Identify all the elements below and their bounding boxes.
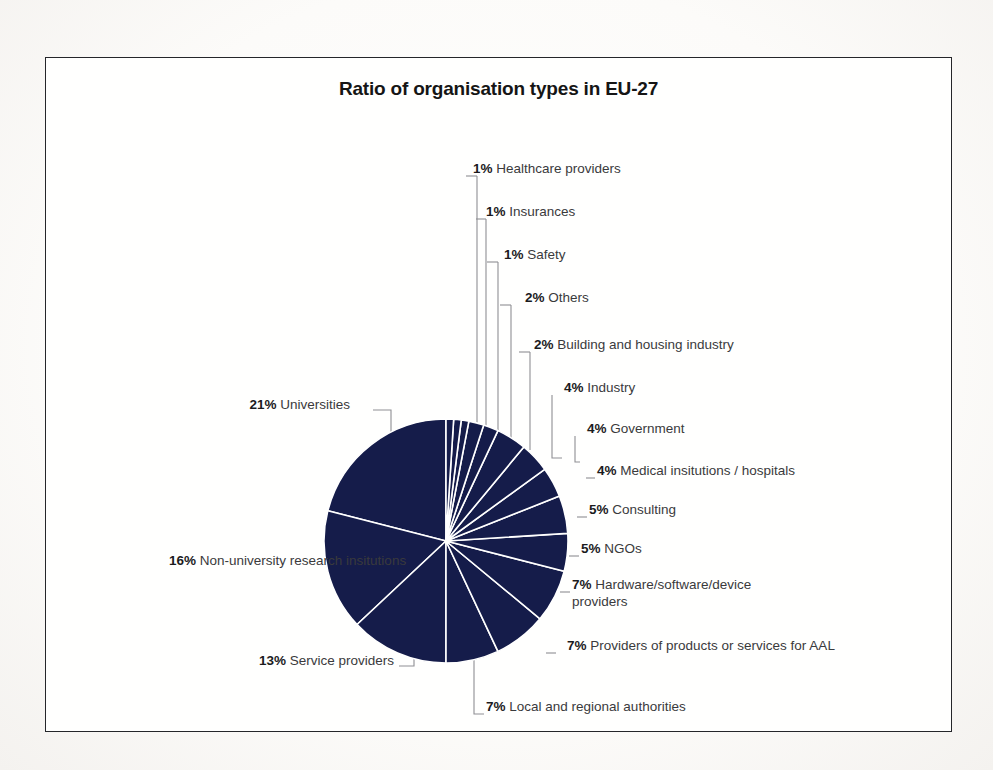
callout-percent: 4% <box>564 380 584 395</box>
callout-percent: 4% <box>587 421 607 436</box>
callout-text: Industry <box>587 380 635 395</box>
leader-industry <box>552 395 562 458</box>
callout-percent: 1% <box>504 247 524 262</box>
callout-text: Building and housing industry <box>557 337 733 352</box>
callout-text: Hardware/software/device providers <box>572 577 751 609</box>
callout-label-universities: 21% Universities <box>249 397 350 414</box>
callout-label-hardware-software-device-providers: 7% Hardware/software/device providers <box>572 577 782 611</box>
callout-text: Consulting <box>612 502 676 517</box>
callout-label-consulting: 5% Consulting <box>589 502 676 519</box>
callout-label-building-and-housing-industry: 2% Building and housing industry <box>534 337 734 354</box>
callout-percent: 1% <box>486 204 506 219</box>
callout-percent: 5% <box>589 502 609 517</box>
callout-label-healthcare-providers: 1% Healthcare providers <box>473 161 621 178</box>
callout-percent: 2% <box>534 337 554 352</box>
callout-label-safety: 1% Safety <box>504 247 566 264</box>
callout-label-ngos: 5% NGOs <box>581 541 642 558</box>
callout-label-government: 4% Government <box>587 421 685 438</box>
callout-text: NGOs <box>604 541 642 556</box>
pie-chart-canvas <box>46 58 953 733</box>
callout-label-providers-of-products-or-services-for-aal: 7% Providers of products or services for… <box>567 638 835 655</box>
callout-text: Insurances <box>509 204 575 219</box>
callout-percent: 16% <box>169 553 196 568</box>
callout-text: Local and regional authorities <box>509 699 685 714</box>
callout-label-medical-insitutions-hospitals: 4% Medical insitutions / hospitals <box>597 463 795 480</box>
callout-text: Service providers <box>290 653 394 668</box>
callout-label-industry: 4% Industry <box>564 380 635 397</box>
callout-text: Providers of products or services for AA… <box>590 638 835 653</box>
callout-percent: 2% <box>525 290 545 305</box>
callout-text: Universities <box>280 397 350 412</box>
callout-label-local-and-regional-authorities: 7% Local and regional authorities <box>486 699 686 716</box>
callout-percent: 7% <box>567 638 587 653</box>
figure-frame: Ratio of organisation types in EU-27 1% … <box>45 57 952 732</box>
callout-percent: 7% <box>572 577 592 592</box>
callout-percent: 7% <box>486 699 506 714</box>
callout-percent: 5% <box>581 541 601 556</box>
callout-text: Others <box>548 290 589 305</box>
callout-label-non-university-research-insitutions: 16% Non-university research insitutions <box>169 553 359 570</box>
callout-text: Government <box>610 421 684 436</box>
callout-percent: 1% <box>473 161 493 176</box>
callout-percent: 21% <box>249 397 276 412</box>
pie-slices-group <box>324 419 568 663</box>
callout-percent: 4% <box>597 463 617 478</box>
callout-text: Safety <box>527 247 565 262</box>
callout-label-service-providers: 13% Service providers <box>259 653 394 670</box>
callout-label-insurances: 1% Insurances <box>486 204 575 221</box>
callout-text: Medical insitutions / hospitals <box>620 463 795 478</box>
callout-text: Non-university research insitutions <box>200 553 406 568</box>
leader-government <box>575 436 580 462</box>
callout-percent: 13% <box>259 653 286 668</box>
callout-label-others: 2% Others <box>525 290 589 307</box>
callout-text: Healthcare providers <box>496 161 621 176</box>
